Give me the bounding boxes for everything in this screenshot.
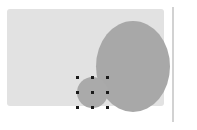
selection-handle-top-left[interactable] [76, 76, 79, 79]
selection-handle-top-center[interactable] [91, 76, 94, 79]
drawing-canvas[interactable] [0, 0, 197, 130]
selection-handle-bottom-center[interactable] [91, 106, 94, 109]
selection-handle-middle-center[interactable] [91, 91, 94, 94]
selection-handle-bottom-left[interactable] [76, 106, 79, 109]
selection-handle-top-right[interactable] [106, 76, 109, 79]
selection-handles-group [0, 0, 197, 130]
selection-handle-middle-left[interactable] [76, 91, 79, 94]
selection-handle-bottom-right[interactable] [106, 106, 109, 109]
selection-handle-middle-right[interactable] [106, 91, 109, 94]
